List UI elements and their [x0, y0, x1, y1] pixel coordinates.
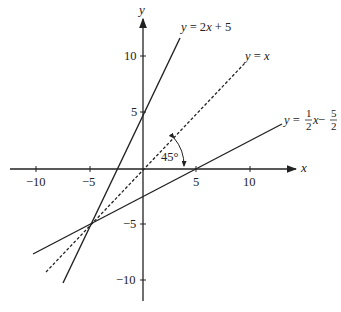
svg-text:2: 2: [331, 120, 337, 132]
x-tick-label: 10: [243, 175, 256, 189]
x-tick-label: −10: [26, 175, 46, 189]
svg-text:−: −: [318, 113, 325, 127]
y-axis-label: y: [137, 2, 145, 17]
svg-text:y =: y =: [282, 113, 300, 127]
svg-text:5: 5: [331, 107, 337, 119]
y-tick-label: 10: [124, 49, 137, 63]
x-axis-label: x: [300, 160, 307, 175]
svg-text:2: 2: [306, 120, 312, 132]
angle-label: 45°: [161, 150, 179, 164]
chart-svg: x y −10 −5 5 10 10 5 −5 −10 45° y = 2x +…: [0, 0, 341, 312]
y-tick-label: 5: [131, 105, 137, 119]
line-y-equals-x: [46, 63, 245, 272]
y-tick-label: −10: [116, 273, 136, 287]
chart-canvas: x y −10 −5 5 10 10 5 −5 −10 45° y = 2x +…: [0, 0, 341, 312]
y-tick-label: −5: [123, 217, 136, 231]
x-tick-label: 5: [193, 175, 199, 189]
svg-text:1: 1: [306, 107, 312, 119]
label-half-x-minus-5-2: y = 1 2 x − 5 2: [282, 107, 337, 132]
label-2x-plus-5: y = 2x + 5: [179, 20, 231, 34]
line-half-x-minus-5-2: [33, 124, 282, 254]
label-y-equals-x: y = x: [243, 49, 270, 63]
x-tick-label: −5: [82, 175, 95, 189]
